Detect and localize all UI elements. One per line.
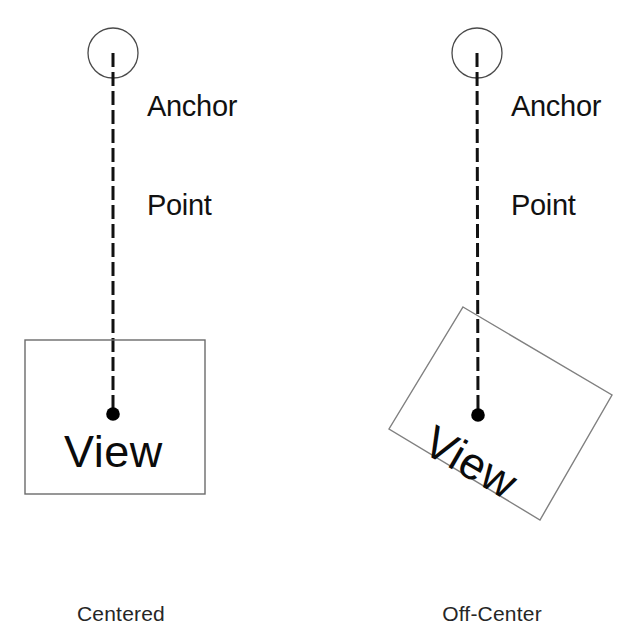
- caption-centered: Centered Attachment Point: [11, 549, 231, 638]
- view-label-left: View: [64, 429, 163, 474]
- anchor-point-label-left: Anchor Point: [147, 24, 237, 288]
- caption-off-center-line1: Off-Center: [380, 601, 604, 627]
- attachment-point-dot-left: [106, 407, 120, 421]
- diagram-canvas: Anchor Point Anchor Point View View Cent…: [0, 0, 634, 638]
- anchor-point-label-right-line2: Point: [511, 189, 601, 222]
- anchor-point-label-left-line2: Point: [147, 189, 237, 222]
- anchor-point-label-right-line1: Anchor: [511, 90, 601, 123]
- attachment-point-dot-right: [471, 408, 485, 422]
- caption-off-center: Off-Center Attachment Point: [380, 549, 604, 638]
- caption-centered-line1: Centered: [11, 601, 231, 627]
- anchor-point-label-left-line1: Anchor: [147, 90, 237, 123]
- tether-line-right: [477, 53, 478, 411]
- anchor-point-label-right: Anchor Point: [511, 24, 601, 288]
